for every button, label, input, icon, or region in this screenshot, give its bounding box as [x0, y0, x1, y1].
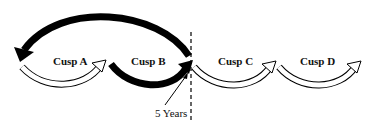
cusp-a-label: Cusp A	[53, 55, 88, 67]
cusp-b-label: Cusp B	[131, 55, 166, 67]
cusp-d-label: Cusp D	[300, 55, 335, 67]
cusp-diagram: Cusp A Cusp B Cusp C Cusp D 5 Years	[0, 0, 377, 125]
cusp-c-label: Cusp C	[218, 55, 253, 67]
five-years-label: 5 Years	[155, 107, 187, 119]
